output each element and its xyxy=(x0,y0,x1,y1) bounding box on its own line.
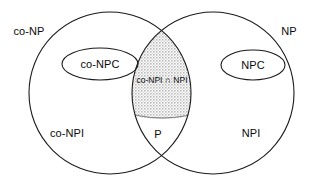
npc-ellipse xyxy=(221,50,285,80)
co-npc-ellipse xyxy=(62,48,138,80)
venn-diagram-canvas xyxy=(0,0,316,193)
venn-diagram: co-NP NP co-NPC NPC co-NPI NPI P co-NPI … xyxy=(0,0,316,193)
